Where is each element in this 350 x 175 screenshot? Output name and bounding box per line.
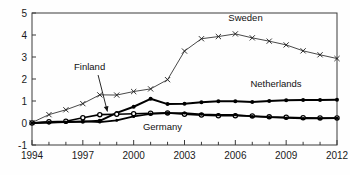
x-tick-label: 2006 <box>224 150 247 161</box>
series-label-sweden: Sweden <box>228 12 262 23</box>
y-tick-label: -1 <box>18 140 27 151</box>
finland-pointer-line <box>98 75 107 112</box>
chart-container: -1012345 1994199720002003200620092012 Sw… <box>0 0 350 175</box>
x-tick-label: 1997 <box>72 150 95 161</box>
y-tick-label: 0 <box>21 118 27 129</box>
x-tick-label: 2012 <box>326 150 349 161</box>
y-tick-label: 2 <box>21 74 27 85</box>
series-label-netherlands: Netherlands <box>250 78 301 89</box>
x-tick-label: 2000 <box>123 150 146 161</box>
x-tick-label: 2009 <box>275 150 298 161</box>
x-axis-ticks: 1994199720002003200620092012 <box>21 140 349 161</box>
y-tick-label: 4 <box>21 30 27 41</box>
x-tick-label: 1994 <box>21 150 44 161</box>
finland-pointer-arrowhead <box>104 106 109 112</box>
x-tick-label: 2003 <box>173 150 196 161</box>
y-tick-label: 1 <box>21 96 27 107</box>
series-label-germany: Germany <box>143 121 182 132</box>
y-tick-label: 3 <box>21 52 27 63</box>
line-chart: -1012345 1994199720002003200620092012 Sw… <box>0 0 350 175</box>
y-axis-ticks: -1012345 <box>18 8 36 151</box>
series-label-finland: Finland <box>74 61 105 72</box>
y-tick-label: 5 <box>21 8 27 19</box>
